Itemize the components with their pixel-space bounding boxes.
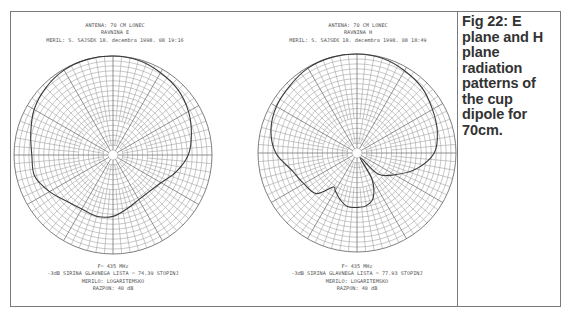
grid-ring [108, 150, 118, 160]
e-plane-frequency: F= 435 MHz [38, 263, 188, 270]
h-plane-measured-label: MERIL: S. SAJSEK 18. decembra 1998. 08 1… [283, 37, 433, 44]
grid-spoke [287, 83, 333, 129]
grid-spoke [138, 85, 184, 131]
grid-spoke [43, 85, 89, 131]
grid-spoke [382, 178, 428, 224]
caption-divider [457, 11, 458, 307]
e-plane-footer: F= 435 MHz -3dB SIRINA GLAVNEGA LISTA = … [38, 263, 188, 293]
h-plane-plane-label: RAVNINA H [283, 29, 433, 36]
e-plane-header: ANTENA: 70 CM LONEC RAVNINA E MERIL: S. … [40, 22, 190, 44]
grid-spoke [382, 83, 428, 129]
h-plane-scale: MERILO: LOGARITEMSKO [282, 278, 432, 285]
h-plane-polar-chart [257, 53, 457, 253]
h-plane-antenna-label: ANTENA: 70 CM LONEC [283, 22, 433, 29]
grid-ring [352, 148, 362, 158]
h-plane-frequency: F= 435 MHz [282, 263, 432, 270]
h-plane-beamwidth: -3dB SIRINA GLAVNEGA LISTA = 77.93 STOPI… [282, 270, 432, 277]
e-plane-measured-label: MERIL: S. SAJSEK 18. decembra 1998. 08 1… [40, 37, 190, 44]
h-plane-range: RAZPON: 40 dB [282, 285, 432, 292]
e-plane-scale: MERILO: LOGARITEMSKO [38, 278, 188, 285]
e-plane-polar-chart [13, 55, 213, 255]
grid-spoke [138, 180, 184, 226]
e-plane-plane-label: RAVNINA E [40, 29, 190, 36]
h-plane-footer: F= 435 MHz -3dB SIRINA GLAVNEGA LISTA = … [282, 263, 432, 293]
h-plane-header: ANTENA: 70 CM LONEC RAVNINA H MERIL: S. … [283, 22, 433, 44]
e-plane-antenna-label: ANTENA: 70 CM LONEC [40, 22, 190, 29]
figure-caption: Fig 22: E plane and H plane radiation pa… [462, 14, 558, 138]
grid-spoke [43, 180, 89, 226]
e-plane-beamwidth: -3dB SIRINA GLAVNEGA LISTA = 74.39 STOPI… [38, 270, 188, 277]
e-plane-range: RAZPON: 40 dB [38, 285, 188, 292]
grid-spoke [287, 178, 333, 224]
